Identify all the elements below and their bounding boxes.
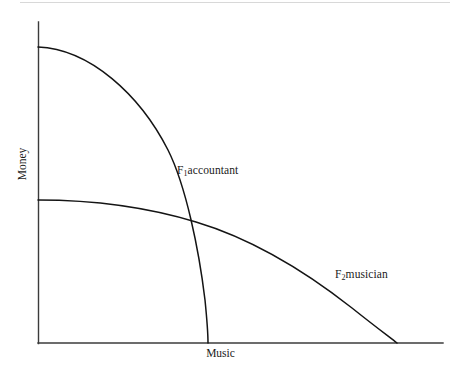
f2-curve-annotation: F2musician	[335, 268, 388, 280]
f2-label-suffix: musician	[346, 268, 388, 280]
production-possibility-frontier-figure: F1accountant F2musician Music Money	[0, 0, 465, 372]
f1-label-base: F	[177, 164, 184, 176]
f2-label-subscript: 2	[342, 273, 346, 282]
y-axis-label: Money	[16, 134, 28, 194]
x-axis-label-text: Music	[206, 347, 235, 359]
x-axis-label: Music	[0, 347, 465, 359]
f1-label-suffix: accountant	[188, 164, 239, 176]
chart-canvas	[0, 0, 465, 372]
curve-f1-accountant	[38, 47, 208, 343]
f1-label-subscript: 1	[184, 169, 188, 178]
f1-curve-annotation: F1accountant	[177, 164, 238, 176]
f2-label-base: F	[335, 268, 342, 280]
